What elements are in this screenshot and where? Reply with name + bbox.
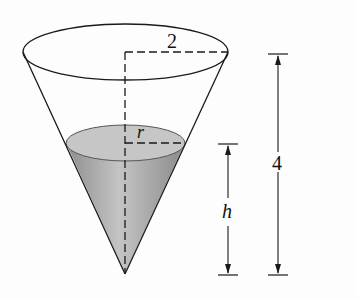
water-height-label: h [222,200,232,222]
top-radius-label: 2 [167,30,177,52]
arrow-down-icon [275,264,281,274]
total-height-label: 4 [272,152,282,174]
water-radius-label: r [137,122,145,142]
arrow-up-icon [225,145,231,155]
cone-diagram: 2 r h 4 [0,0,357,300]
arrow-down-icon [225,264,231,274]
arrow-up-icon [275,55,281,65]
cone-svg: 2 r h 4 [0,0,357,300]
